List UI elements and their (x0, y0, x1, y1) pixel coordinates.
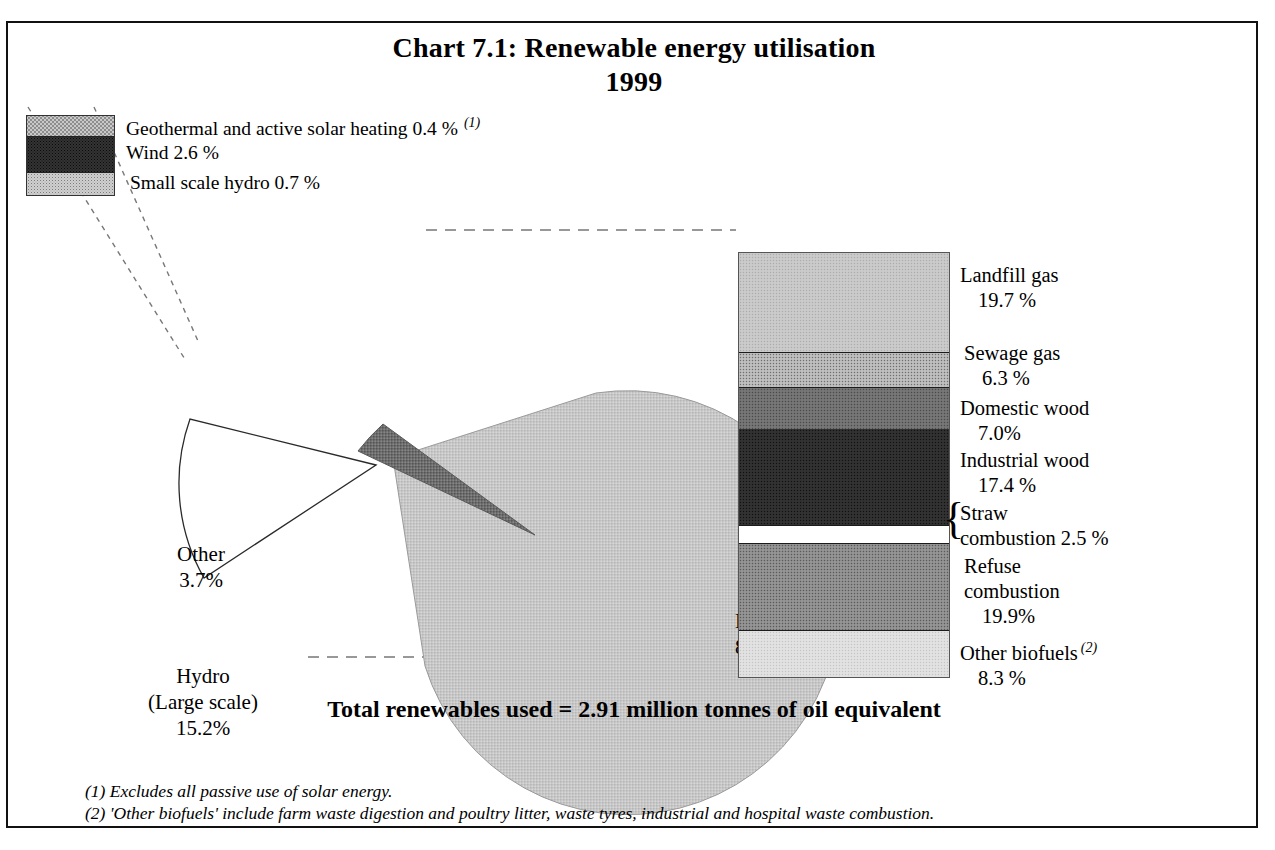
bar-segment-straw-combustion (739, 526, 949, 544)
bar-segment-domestic-wood (739, 388, 949, 429)
footnote-1: (1) Excludes all passive use of solar en… (85, 780, 1225, 802)
page-title: Chart 7.1: Renewable energy utilisation … (8, 31, 1260, 99)
other-breakdown-legend: Geothermal and active solar heating 0.4 … (26, 113, 546, 213)
bar-segment-landfill-gas (739, 253, 949, 353)
legend-item-wind: Wind 2.6 % (126, 143, 219, 163)
title-line-2: 1999 (8, 65, 1260, 99)
geothermal-swatch (27, 116, 114, 137)
bar-label-industrial-wood: Industrial wood 17.4 % (960, 448, 1089, 498)
pie-svg (128, 223, 628, 693)
wind-swatch (27, 137, 114, 173)
footnotes: (1) Excludes all passive use of solar en… (85, 780, 1225, 824)
bar-label-refuse-combustion: Refuse combustion 19.9% (964, 554, 1060, 629)
bar-label-name: Sewage gas (964, 341, 1060, 366)
pie-label-value: 3.7% (179, 568, 223, 592)
bar-label-name: Refuse (964, 554, 1060, 579)
pie-label-name: Other (177, 542, 225, 566)
small-hydro-swatch (27, 173, 114, 195)
footnote-marker-1: (1) (464, 115, 480, 130)
bar-label-landfill-gas: Landfill gas 19.7 % (960, 263, 1059, 313)
bar-label-sewage-gas: Sewage gas 6.3 % (964, 341, 1060, 391)
bar-label-value: 19.7 % (960, 288, 1059, 313)
bar-label-name: Landfill gas (960, 263, 1059, 288)
bar-label-name-2: combustion (964, 579, 1060, 604)
bar-label-straw-combustion: Straw combustion 2.5 % (960, 501, 1109, 551)
legend-item-geothermal: Geothermal and active solar heating 0.4 … (126, 113, 480, 139)
bar-label-name: Straw (960, 501, 1109, 526)
bar-label-value: 17.4 % (960, 473, 1089, 498)
bar-segment-refuse-combustion (739, 544, 949, 630)
bar-label-name: Industrial wood (960, 448, 1089, 473)
legend-swatch-stack (26, 115, 115, 196)
legend-item-label: Geothermal and active solar heating 0.4 … (126, 118, 458, 139)
bar-label-name: Other biofuels(2) (960, 635, 1097, 666)
bar-label-name: Domestic wood (960, 396, 1089, 421)
footnote-2: (2) 'Other biofuels' include farm waste … (85, 802, 1225, 824)
footnote-marker-2: (2) (1081, 640, 1097, 655)
bar-segment-other-biofuels (739, 631, 949, 677)
bar-label-value: 19.9% (964, 604, 1060, 629)
bar-label-other-biofuels: Other biofuels(2) 8.3 % (960, 635, 1097, 691)
chart-frame: Chart 7.1: Renewable energy utilisation … (6, 21, 1258, 828)
pie-label-other: Other 3.7% (142, 541, 260, 593)
bar-label-value: 8.3 % (960, 666, 1097, 691)
pie-label-name: Hydro (176, 664, 230, 688)
pie-chart: Other 3.7% Hydro (Large scale) 15.2% Bio… (128, 223, 628, 693)
bar-label-name-text: Other biofuels (960, 642, 1078, 664)
legend-item-small-hydro: Small scale hydro 0.7 % (130, 173, 320, 193)
bar-segment-sewage-gas (739, 353, 949, 388)
bar-label-name-2: combustion 2.5 % (960, 526, 1109, 551)
bar-label-value: 7.0% (960, 421, 1089, 446)
stacked-bar-biofuels (738, 252, 950, 678)
bar-segment-industrial-wood (739, 429, 949, 527)
total-renewables-text: Total renewables used = 2.91 million ton… (8, 696, 1260, 723)
legend-item-label: Small scale hydro 0.7 % (130, 172, 320, 193)
bar-label-domestic-wood: Domestic wood 7.0% (960, 396, 1089, 446)
bar-label-value: 6.3 % (964, 366, 1060, 391)
legend-item-label: Wind 2.6 % (126, 142, 219, 163)
title-line-1: Chart 7.1: Renewable energy utilisation (393, 32, 876, 63)
